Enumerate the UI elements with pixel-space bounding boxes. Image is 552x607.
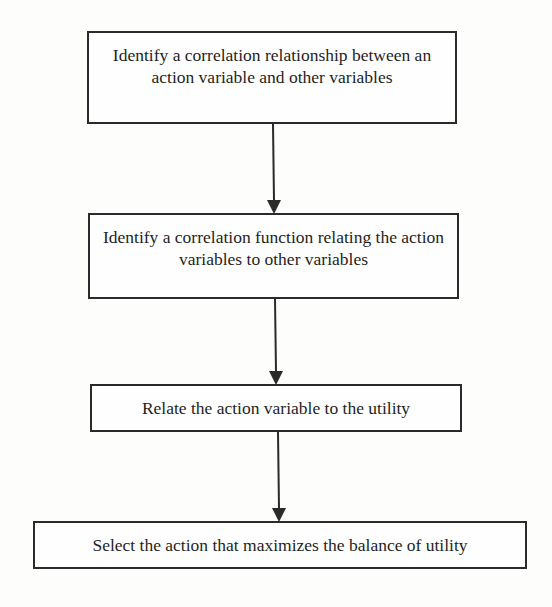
flow-step-4-box: Select the action that maximizes the bal… xyxy=(33,521,527,569)
arrow-step2-to-step3 xyxy=(269,299,283,385)
arrowhead-down-icon xyxy=(272,508,286,522)
arrowhead-down-icon xyxy=(267,200,281,214)
arrow-step1-to-step2 xyxy=(267,124,281,214)
arrow-step3-to-step4 xyxy=(272,432,286,522)
flow-step-3-label: Relate the action variable to the utilit… xyxy=(142,397,410,419)
flow-step-1-label: Identify a correlation relationship betw… xyxy=(99,44,445,88)
flow-step-2-label: Identify a correlation function relating… xyxy=(100,226,447,270)
flow-step-1-box: Identify a correlation relationship betw… xyxy=(87,31,457,124)
flow-step-2-box: Identify a correlation function relating… xyxy=(88,213,459,299)
arrowhead-down-icon xyxy=(269,371,283,385)
flow-step-4-label: Select the action that maximizes the bal… xyxy=(92,534,467,556)
flow-step-3-box: Relate the action variable to the utilit… xyxy=(90,384,462,432)
